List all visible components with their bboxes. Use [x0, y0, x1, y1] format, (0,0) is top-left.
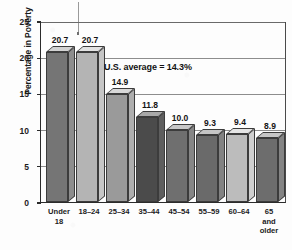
y-tick-label: 25 — [0, 17, 29, 27]
bar-side-face — [188, 124, 195, 202]
bar-side-face — [218, 129, 225, 202]
bar-front-face — [46, 52, 68, 202]
bar[interactable] — [166, 130, 188, 202]
bar-front-face — [106, 94, 128, 202]
y-tick-mark — [37, 130, 41, 131]
y-tick-mark — [37, 166, 41, 167]
bar-side-face — [248, 128, 255, 202]
y-tick-mark — [37, 94, 41, 95]
us-average-annotation: U.S. average = 14.3% — [104, 62, 192, 72]
bar-front-face — [196, 135, 218, 202]
bar[interactable] — [226, 134, 248, 202]
bar-side-face — [68, 46, 75, 202]
bar-value-label: 20.7 — [70, 35, 110, 45]
bar[interactable] — [256, 138, 278, 202]
bar-side-face — [158, 111, 165, 202]
bar-front-face — [166, 130, 188, 202]
y-tick-label: 20 — [0, 53, 29, 63]
bar-front-face — [226, 134, 248, 202]
y-tick-label: 10 — [0, 126, 29, 136]
bar[interactable] — [46, 52, 68, 202]
plot-area: 051015202520.720.714.911.810.09.39.48.9 — [40, 22, 286, 203]
gridline — [41, 22, 285, 23]
bar-front-face — [76, 52, 98, 202]
bar-value-label: 8.9 — [250, 121, 290, 131]
x-axis-label: 65 and older — [248, 207, 290, 236]
bar[interactable] — [76, 52, 98, 202]
bar-side-face — [278, 132, 285, 202]
bar-front-face — [136, 117, 158, 202]
bar-value-label: 14.9 — [100, 77, 140, 87]
y-tick-mark — [37, 202, 41, 203]
bar-value-label: 11.8 — [130, 100, 170, 110]
poverty-by-age-bar-chart: Percentage in Poverty 051015202520.720.7… — [0, 0, 292, 250]
bar[interactable] — [106, 94, 128, 202]
bar[interactable] — [136, 117, 158, 202]
y-tick-label: 15 — [0, 89, 29, 99]
y-tick-label: 5 — [0, 162, 29, 172]
y-tick-mark — [37, 58, 41, 59]
y-tick-mark — [37, 21, 41, 22]
y-tick-label: 0 — [0, 198, 29, 208]
bar-front-face — [256, 138, 278, 202]
bar[interactable] — [196, 135, 218, 202]
